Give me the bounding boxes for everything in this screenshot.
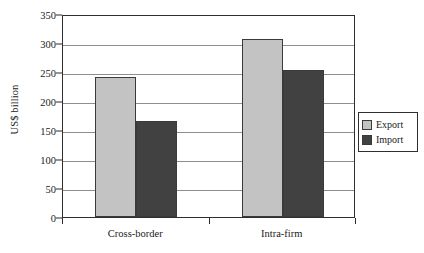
y-axis-tick-labels: 050100150200250300350 xyxy=(22,0,56,253)
x-axis-origin-tick-mark xyxy=(62,218,63,224)
y-axis-title-text: US$ billion xyxy=(10,84,21,134)
bar-chart-figure: US$ billion 050100150200250300350 Export… xyxy=(0,0,424,253)
y-axis-tick-label: 300 xyxy=(40,39,56,50)
bar-intra-firm-export xyxy=(242,39,283,217)
gridline xyxy=(63,45,354,46)
y-axis-tick-mark xyxy=(56,189,62,190)
y-axis-tick-mark xyxy=(56,102,62,103)
y-axis-tick-mark xyxy=(56,160,62,161)
y-axis-tick-label: 150 xyxy=(40,126,56,137)
legend-label-import: Import xyxy=(376,134,403,145)
y-axis-tick-label: 200 xyxy=(40,97,56,108)
y-axis-tick-mark xyxy=(56,73,62,74)
y-axis-tick-label: 100 xyxy=(40,155,56,166)
y-axis-tick-label: 350 xyxy=(40,10,56,21)
legend-swatch-import-icon xyxy=(362,135,372,145)
bar-cross-border-import xyxy=(136,121,177,217)
y-axis-tick-mark xyxy=(56,131,62,132)
plot-area xyxy=(62,15,355,218)
x-axis-tick-mark xyxy=(355,218,356,224)
y-axis-tick-label: 250 xyxy=(40,68,56,79)
x-axis-category-label: Cross-border xyxy=(108,228,163,239)
bar-cross-border-export xyxy=(95,77,136,217)
y-axis-tick-mark xyxy=(56,15,62,16)
x-axis-tick-mark xyxy=(209,218,210,224)
y-axis-tick-mark xyxy=(56,44,62,45)
bar-intra-firm-import xyxy=(283,70,324,217)
legend-item-import: Import xyxy=(362,132,414,147)
x-axis-category-label: Intra-firm xyxy=(261,228,302,239)
chart-legend: Export Import xyxy=(358,112,418,152)
y-axis-tick-label: 50 xyxy=(46,184,57,195)
legend-swatch-export-icon xyxy=(362,120,372,130)
legend-label-export: Export xyxy=(376,119,403,130)
legend-item-export: Export xyxy=(362,117,414,132)
